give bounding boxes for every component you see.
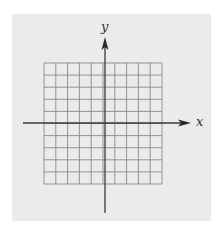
coordinate-plane (0, 0, 220, 233)
y-axis-label: y (101, 20, 108, 33)
x-axis (23, 120, 191, 127)
x-axis-label: x (196, 115, 203, 128)
